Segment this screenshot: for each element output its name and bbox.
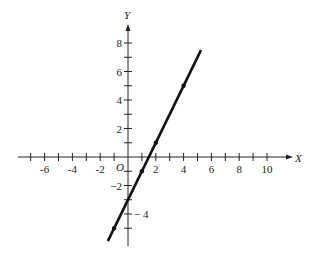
axes	[18, 24, 293, 246]
x-tick-label: -6	[40, 163, 50, 175]
y-tick-label: 8	[117, 37, 123, 49]
data-point	[154, 141, 158, 145]
data-point	[140, 169, 144, 173]
ticks	[31, 43, 267, 228]
y-tick-label: 6	[117, 66, 123, 78]
y-tick-label: 2	[117, 123, 123, 135]
x-tick-label: 8	[236, 163, 242, 175]
y-axis-label: Y	[124, 9, 132, 21]
x-tick-label: 4	[181, 163, 187, 175]
series-line	[108, 50, 201, 241]
x-axis-label: X	[294, 152, 303, 164]
y-tick-label: 4	[117, 94, 123, 106]
data-point	[181, 84, 185, 88]
x-tick-label: 2	[153, 163, 159, 175]
x-arrow-icon	[286, 155, 293, 160]
coordinate-plane: -6-4-22468108642−2− 4 X Y O	[0, 0, 320, 257]
data-point	[112, 226, 116, 230]
y-tick-label: − 4	[134, 208, 149, 220]
y-arrow-icon	[126, 24, 131, 31]
data-line	[108, 50, 201, 241]
y-tick-label: −2	[110, 180, 122, 192]
x-tick-label: 10	[262, 163, 274, 175]
origin-label: O	[116, 161, 124, 173]
x-tick-label: 6	[209, 163, 215, 175]
x-tick-label: -2	[96, 163, 105, 175]
tick-labels: -6-4-22468108642−2− 4	[40, 37, 273, 220]
x-tick-label: -4	[68, 163, 78, 175]
